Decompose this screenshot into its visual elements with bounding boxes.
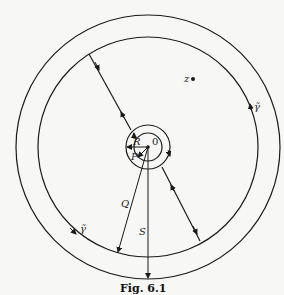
label-P: P: [130, 151, 138, 162]
arrow-icon: [171, 185, 174, 191]
label-origin: 0: [152, 136, 158, 147]
label-gamma-right: γ̃: [254, 101, 260, 112]
label-R: R: [132, 136, 141, 147]
slit-upper-left: [89, 54, 131, 130]
label-gamma-left: γ̃: [80, 223, 86, 234]
figure-caption: Fig. 6.1: [120, 282, 166, 295]
arrow-icon: [121, 112, 124, 118]
label-S: S: [139, 226, 146, 237]
contour-diagram: z 0 R P Q S γ̃ γ̃ Fig. 6.1: [0, 0, 284, 295]
origin-point: [146, 145, 150, 149]
slit-lower-right: [162, 167, 200, 241]
label-z: z: [183, 73, 190, 84]
label-Q: Q: [121, 198, 129, 209]
arrow-icon: [250, 104, 251, 110]
arrow-icon: [193, 226, 197, 234]
point-z: [191, 77, 195, 81]
